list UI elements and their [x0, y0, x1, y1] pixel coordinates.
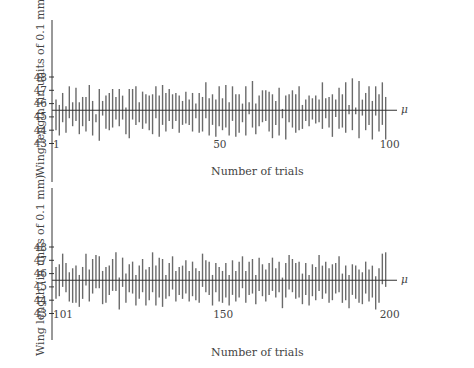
- x-tick-label: 150: [213, 308, 233, 320]
- chart-panel-top: 434445464748μ150100 Wing length (in unit…: [0, 0, 474, 184]
- chart-panel-bottom: 434445464748μ101150200 Wing length (in u…: [0, 184, 474, 368]
- mu-label: μ: [401, 273, 408, 285]
- interval-plot-top: 434445464748μ150100: [0, 0, 474, 184]
- x-tick-label: 101: [53, 308, 73, 320]
- x-tick-label: 50: [213, 138, 226, 150]
- y-axis-label-bottom: Wing length (in units of 0.1 mm): [34, 175, 47, 356]
- y-axis-label-top: Wing length (in units of 0.1 mm): [34, 0, 47, 176]
- interval-plot-bottom: 434445464748μ101150200: [0, 184, 474, 368]
- x-tick-label: 1: [53, 138, 60, 150]
- mu-label: μ: [401, 103, 408, 115]
- x-axis-label-top: Number of trials: [211, 165, 304, 178]
- x-tick-label: 200: [380, 308, 400, 320]
- x-axis-label-bottom: Number of trials: [211, 346, 304, 359]
- x-tick-label: 100: [380, 138, 400, 150]
